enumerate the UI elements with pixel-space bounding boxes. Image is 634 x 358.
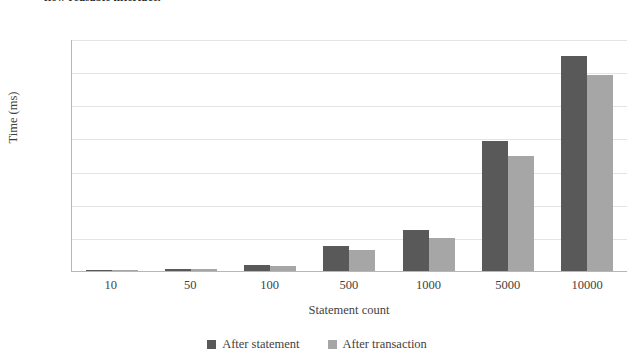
bar-group [389,40,468,271]
y-axis-title: Time (ms) [6,43,21,193]
legend-item: After transaction [328,337,427,352]
bar [191,269,217,271]
bar-group [548,40,627,271]
bar-group [72,40,151,271]
bar-group [468,40,547,271]
bar [165,269,191,271]
bar [112,270,138,271]
chart-legend: After statementAfter transaction [0,337,634,352]
x-axis-tick-label: 10000 [548,278,627,293]
x-axis-tick-label: 50 [150,278,229,293]
legend-label: After statement [222,337,299,352]
bar [587,75,613,271]
x-axis-tick-labels: 10501005001000500010000 [71,278,627,293]
legend-swatch-icon [207,340,216,349]
legend-swatch-icon [328,340,337,349]
bar [349,250,375,271]
x-axis-tick-label: 5000 [468,278,547,293]
bar [323,246,349,271]
x-axis-tick-label: 10 [71,278,150,293]
bar-group [310,40,389,271]
bar [508,156,534,272]
bar [482,141,508,271]
chart-figure: flow reusable interface. Time (ms) 02004… [0,0,634,358]
bar [429,238,455,271]
bar-groups [72,40,627,271]
bar [86,270,112,271]
bar-group [151,40,230,271]
plot-area [71,40,627,272]
x-axis-tick-label: 1000 [389,278,468,293]
clipped-caption-text: flow reusable interface. [44,0,344,3]
x-axis-tick-label: 100 [230,278,309,293]
bar [270,266,296,271]
bar [561,56,587,271]
bar [244,265,270,271]
bar [403,230,429,271]
x-axis-title: Statement count [71,303,627,318]
legend-item: After statement [207,337,299,352]
bar-group [231,40,310,271]
legend-label: After transaction [343,337,427,352]
x-axis-tick-label: 500 [309,278,388,293]
